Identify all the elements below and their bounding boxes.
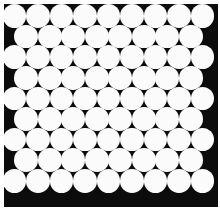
circle-packing-field [4, 4, 218, 207]
packed-circle [85, 66, 109, 90]
packed-circle [108, 66, 132, 90]
packed-circle [179, 107, 203, 131]
packed-circle [61, 66, 85, 90]
figure-root: Hexagonal close-packed circle array Mono… [0, 0, 220, 210]
figure-description: Monochrome micrograph-style image: white… [0, 0, 1, 1]
packed-circle [179, 66, 203, 90]
packed-circle [132, 107, 156, 131]
packed-circle [38, 107, 62, 131]
packed-circle [120, 169, 144, 193]
packed-circle [132, 66, 156, 90]
packed-circle [14, 66, 38, 90]
packed-circle [73, 169, 97, 193]
packed-circle [85, 107, 109, 131]
packed-circle [4, 169, 26, 193]
packed-circle [144, 169, 168, 193]
packed-circle [26, 169, 50, 193]
packed-circle [50, 169, 74, 193]
packed-circle [97, 169, 121, 193]
packed-circle [191, 169, 215, 193]
figure-alt-text: Dense hexagonal packing of equal white d… [0, 0, 1, 1]
packed-circle [155, 66, 179, 90]
packed-circle [167, 169, 191, 193]
packed-circle [191, 4, 215, 28]
packed-circle [38, 66, 62, 90]
figure-title: Hexagonal close-packed circle array [0, 0, 1, 1]
